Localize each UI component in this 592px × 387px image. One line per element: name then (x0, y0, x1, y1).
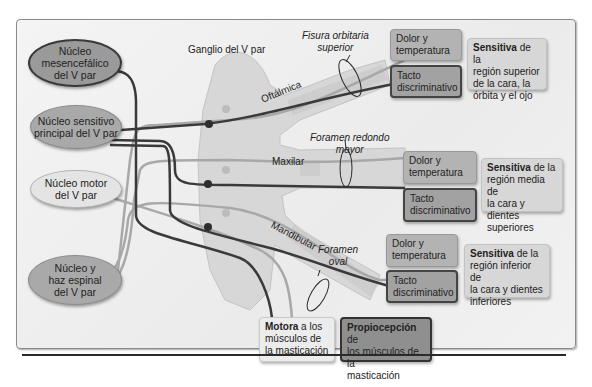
maxillary-sensory-line3: la cara y dientes (487, 198, 557, 222)
nucleus-principal-sensory: Núcleo sensitivo principal del V par (30, 105, 122, 149)
nucleus-mesencephalic-line2: mesencefálico (41, 57, 108, 69)
maxillary-touch-line1: Tacto (410, 193, 470, 205)
foramen-rotundum-line2: mayor (310, 144, 390, 156)
nucleus-motor-line2: del V par (45, 189, 107, 201)
trigeminal-ganglion-shape (198, 52, 405, 310)
mandibular-sensory-box: Sensitiva de la región inferior de la ca… (464, 244, 550, 298)
motor-rest1: a los (298, 321, 322, 332)
maxillary-sensory-box: Sensitiva de la región media de la cara … (481, 158, 563, 212)
ophthalmic-sensory-box: Sensitiva de la región superior de la ca… (467, 38, 547, 90)
proprioception-bold: Propiocepción (347, 322, 416, 333)
ophthalmic-sensory-bold: Sensitiva (473, 42, 517, 53)
mandibular-sensory-line2: región inferior de (470, 260, 544, 284)
ophthalmic-pain-line2: temperatura (396, 45, 456, 57)
maxillary-pain-temperature-box: Dolor y temperatura (403, 151, 477, 184)
ophthalmic-touch-line1: Tacto (397, 70, 455, 82)
proprioception-line3: masticación (347, 370, 425, 382)
branch-label-maxillary: Maxilar (272, 156, 304, 167)
nucleus-spinal-line1: Núcleo y (48, 262, 101, 274)
nucleus-motor: Núcleo motor del V par (30, 170, 122, 208)
nucleus-spinal-line2: haz espinal (48, 274, 101, 286)
foramen-label-ovale: Foramen oval (318, 244, 358, 268)
foramen-rotundum-line1: Foramen redondo (310, 132, 390, 144)
foramen-label-rotundum: Foramen redondo mayor (310, 132, 390, 156)
maxillary-sensory-line1: Sensitiva de la (487, 162, 557, 174)
ophthalmic-pain-line1: Dolor y (396, 33, 456, 45)
nucleus-mesencephalic-line1: Núcleo (41, 45, 108, 57)
ganglion-label: Ganglio del V par (188, 44, 265, 55)
ophthalmic-pain-temperature-box: Dolor y temperatura (390, 29, 462, 61)
maxillary-pain-line2: temperatura (409, 167, 471, 179)
foramen-sof-line2: superior (302, 42, 369, 54)
motor-line1: Motora a los (265, 321, 329, 333)
maxillary-sensory-line2: región media de (487, 174, 557, 198)
ophthalmic-sensory-line3: de la cara, la (473, 78, 541, 90)
maxillary-touch-box: Tacto discriminativo (403, 188, 477, 222)
bottom-divider (22, 354, 566, 356)
maxillary-touch-line2: discriminativo (410, 205, 470, 217)
foramen-label-superior-orbital-fissure: Fisura orbitaria superior (302, 30, 369, 54)
proprioception-line1: Propiocepción de (347, 322, 425, 346)
nucleus-principal-sensory-line1: Núcleo sensitivo (34, 115, 118, 127)
maxillary-sensory-line4: superiores (487, 222, 557, 234)
mandibular-touch-line2: discriminativo (393, 287, 451, 299)
motor-line2: músculos de (265, 333, 329, 345)
nucleus-mesencephalic-line3: del V par (41, 69, 108, 81)
mandibular-pain-line1: Dolor y (392, 238, 452, 250)
mandibular-sensory-bold: Sensitiva (470, 248, 514, 259)
ophthalmic-sensory-line4: órbita y el ojo (473, 90, 541, 102)
mandibular-touch-box: Tacto discriminativo (386, 270, 458, 303)
ophthalmic-sensory-line1: Sensitiva de la (473, 42, 541, 66)
foramen-sof-line1: Fisura orbitaria (302, 30, 369, 42)
maxillary-sensory-bold: Sensitiva (487, 162, 531, 173)
mandibular-sensory-line4: inferiores (470, 296, 544, 308)
nucleus-mesencephalic: Núcleo mesencefálico del V par (28, 39, 122, 87)
foramen-ovale-line1: Foramen (318, 244, 358, 256)
mandibular-pain-line2: temperatura (392, 250, 452, 262)
nucleus-spinal: Núcleo y haz espinal del V par (28, 255, 122, 305)
nucleus-principal-sensory-line2: principal del V par (34, 127, 118, 139)
proprioception-rest1: de (347, 334, 358, 345)
mandibular-sensory-line1: Sensitiva de la (470, 248, 544, 260)
nucleus-spinal-line3: del V par (48, 286, 101, 298)
maxillary-pain-line1: Dolor y (409, 155, 471, 167)
mandibular-touch-line1: Tacto (393, 275, 451, 287)
mandibular-pain-temperature-box: Dolor y temperatura (386, 234, 458, 267)
mandibular-sensory-rest1: de la (514, 248, 538, 259)
ophthalmic-touch-line2: discriminativo (397, 82, 455, 94)
foramen-ovale-line2: oval (318, 256, 358, 268)
ophthalmic-sensory-line2: región superior (473, 66, 541, 78)
nucleus-motor-line1: Núcleo motor (45, 177, 107, 189)
motor-bold: Motora (265, 321, 298, 332)
proprioception-line2: los músculos de la (347, 346, 425, 370)
maxillary-sensory-rest1: de la (531, 162, 555, 173)
ophthalmic-touch-box: Tacto discriminativo (390, 65, 462, 98)
mandibular-sensory-line3: la cara y dientes (470, 284, 544, 296)
